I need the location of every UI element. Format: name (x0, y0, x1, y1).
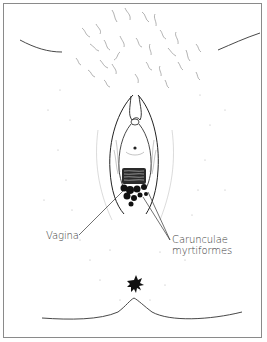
clitoral-hood (130, 96, 142, 120)
pubic-hair-strokes (76, 8, 201, 88)
vaginal-introitus (122, 168, 146, 184)
vagina-leader-line (79, 191, 123, 235)
carunculae-blobs (121, 184, 149, 207)
label-caruncle-line1: Carunculae (172, 234, 232, 245)
gluteal-curve (42, 298, 242, 319)
label-vagina: Vagina (46, 230, 79, 241)
left-groin-line (20, 40, 62, 52)
anus (127, 275, 144, 293)
label-carunculae-myrtiformes: Carunculae myrtiformes (172, 234, 232, 256)
label-caruncle-line2: myrtiformes (172, 245, 232, 256)
right-groin-line (218, 33, 260, 50)
urethral-orifice (133, 146, 136, 149)
anatomical-illustration (0, 0, 267, 342)
caruncle-leader-line-2 (148, 192, 170, 240)
